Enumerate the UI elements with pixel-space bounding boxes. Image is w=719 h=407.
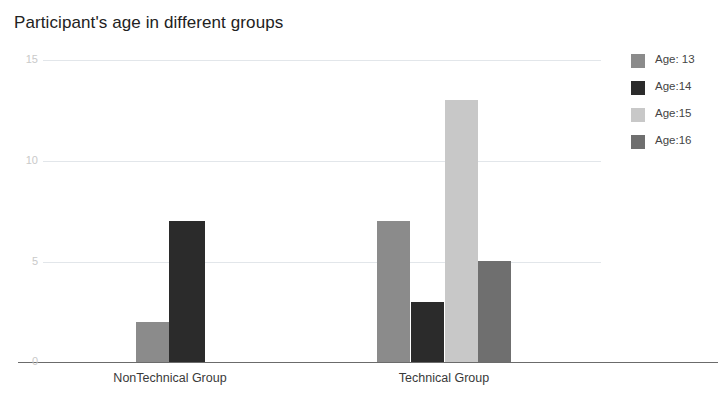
bar-nontechnical-age14[interactable]: [169, 221, 205, 362]
legend-swatch-age16: [631, 135, 645, 149]
legend-item-age15[interactable]: Age:15: [629, 106, 719, 133]
legend-item-age14[interactable]: Age:14: [629, 79, 719, 106]
y-tick-label-0: 0: [8, 356, 38, 367]
bar-nontechnical-age13[interactable]: [136, 322, 169, 362]
legend-label-age14: Age:14: [655, 80, 691, 92]
y-tick-label-5: 5: [8, 256, 38, 267]
bar-chart: Participant's age in different groups 15…: [0, 0, 719, 407]
legend-label-age15: Age:15: [655, 107, 691, 119]
legend-label-age13: Age: 13: [655, 53, 695, 65]
y-tick-label-10: 10: [8, 155, 38, 166]
bar-technical-age14[interactable]: [411, 302, 444, 362]
bar-technical-age16[interactable]: [478, 261, 511, 362]
gridline-15: [43, 60, 601, 61]
y-tick-label-15: 15: [8, 54, 38, 65]
x-axis-label-nontechnical: NonTechnical Group: [100, 371, 240, 385]
legend-swatch-age14: [631, 81, 645, 95]
gridline-10: [43, 161, 601, 162]
legend-swatch-age15: [631, 108, 645, 122]
legend-item-age16[interactable]: Age:16: [629, 133, 719, 160]
legend-label-age16: Age:16: [655, 134, 691, 146]
legend-item-age13[interactable]: Age: 13: [629, 52, 719, 79]
plot-area: 15 10 5 0 NonTechnical Group Technical G…: [0, 0, 719, 407]
axis-baseline: [18, 362, 718, 363]
x-axis-label-technical: Technical Group: [374, 371, 514, 385]
legend-swatch-age13: [631, 54, 645, 68]
chart-legend: Age: 13 Age:14 Age:15 Age:16: [629, 52, 719, 160]
gridline-5: [43, 262, 601, 263]
bar-technical-age15[interactable]: [445, 100, 478, 362]
bar-technical-age13[interactable]: [377, 221, 410, 362]
